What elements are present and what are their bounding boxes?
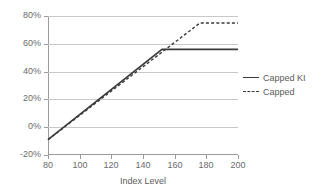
x-tick-mark [80, 155, 81, 159]
legend-item-capped[interactable]: Capped [243, 86, 323, 98]
legend-label-capped: Capped [263, 87, 295, 97]
payoff-chart: -20%0%20%40%60%80% 80100120140160180200 … [0, 0, 323, 196]
x-tick-mark [48, 155, 49, 159]
y-tick-label: 40% [0, 67, 41, 76]
x-tick-label: 100 [65, 161, 95, 170]
legend-label-capped-ki: Capped KI [263, 73, 306, 83]
legend-swatch-dotted-icon [243, 88, 259, 96]
x-tick-mark [111, 155, 112, 159]
y-tick-label: 0% [0, 122, 41, 131]
x-tick-label: 180 [191, 161, 221, 170]
x-tick-mark [143, 155, 144, 159]
x-tick-label: 80 [33, 161, 63, 170]
plot-area: -20%0%20%40%60%80% 80100120140160180200 [48, 16, 238, 155]
y-tick-label: 60% [0, 39, 41, 48]
legend-item-capped-ki[interactable]: Capped KI [243, 72, 323, 84]
series-line [48, 49, 238, 139]
x-tick-mark [238, 155, 239, 159]
x-tick-label: 120 [96, 161, 126, 170]
series-line [48, 23, 238, 140]
x-tick-mark [206, 155, 207, 159]
series-lines [48, 16, 238, 155]
x-axis-title: Index Level [48, 176, 238, 186]
x-tick-mark [175, 155, 176, 159]
legend-swatch-solid-icon [243, 74, 259, 82]
x-tick-label: 200 [223, 161, 253, 170]
legend: Capped KI Capped [243, 72, 323, 100]
x-tick-label: 160 [160, 161, 190, 170]
y-tick-label: 20% [0, 94, 41, 103]
y-tick-label: -20% [0, 150, 41, 159]
x-tick-label: 140 [128, 161, 158, 170]
y-tick-label: 80% [0, 11, 41, 20]
